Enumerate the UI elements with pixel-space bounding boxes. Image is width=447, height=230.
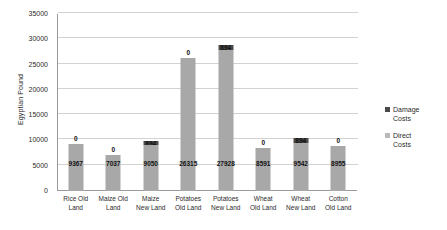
bar-chart: Egyptian Pound 0500010000150002000025000…	[0, 0, 447, 230]
legend-item[interactable]: DirectCosts	[385, 132, 445, 149]
bar-label-direct-costs: 9542	[294, 160, 308, 167]
y-axis-tick-label: 10000	[8, 136, 48, 144]
bar-group[interactable]: 08955	[320, 14, 358, 191]
legend-item[interactable]: DamageCosts	[385, 106, 445, 123]
legend-label-line: Damage	[393, 106, 419, 115]
bar-label-damage-costs: 0	[111, 146, 115, 153]
x-axis-tick-label-line: Old Land	[170, 203, 208, 212]
bar-segment-direct-costs[interactable]: 26315	[181, 58, 196, 191]
x-axis-tick-label-line: Maize Old	[95, 194, 133, 203]
legend-label-line: Direct	[393, 132, 411, 141]
y-axis-tick-label: 25000	[8, 61, 48, 69]
bar-label-direct-costs: 8591	[256, 160, 270, 167]
bar-label-direct-costs: 9367	[69, 160, 83, 167]
y-axis-tick-label: 15000	[8, 111, 48, 119]
bar-label-direct-costs: 26315	[179, 160, 197, 167]
x-axis-tick-label-line: Land	[95, 203, 133, 212]
bar-stack[interactable]: 8949542	[293, 138, 308, 191]
bar-group[interactable]: 8949542	[282, 14, 320, 191]
bar-label-damage-costs: 0	[261, 139, 265, 146]
bars-layer: 0936707037894905002631589427928085918949…	[57, 14, 357, 191]
bar-group[interactable]: 09367	[57, 14, 95, 191]
bar-label-damage-costs: 0	[336, 137, 340, 144]
x-axis-tick-label-line: Potatoes	[207, 194, 245, 203]
bar-group[interactable]: 8949050	[132, 14, 170, 191]
x-axis-tick-labels: Rice OldLandMaize OldLandMaizeNew LandPo…	[57, 194, 357, 224]
x-axis-tick-label: MaizeNew Land	[132, 194, 170, 212]
bar-segment-direct-costs[interactable]: 8955	[331, 146, 346, 191]
x-axis-tick-label: WheatNew Land	[282, 194, 320, 212]
x-axis-tick-label-line: Wheat	[245, 194, 283, 203]
legend-label-line: Costs	[393, 115, 419, 124]
x-axis-tick-label-line: Old Land	[245, 203, 283, 212]
x-axis-tick-label-line: Old Land	[320, 203, 358, 212]
chart-legend: DamageCostsDirectCosts	[385, 106, 445, 158]
legend-item-label: DirectCosts	[393, 132, 411, 149]
bar-segment-direct-costs[interactable]: 9542	[293, 143, 308, 191]
bar-group[interactable]: 89427928	[207, 14, 245, 191]
bar-group[interactable]: 07037	[95, 14, 133, 191]
bar-group[interactable]: 08591	[245, 14, 283, 191]
y-axis-tick-label: 0	[8, 187, 48, 195]
x-axis-tick-label-line: Land	[57, 203, 95, 212]
x-axis-tick-label-line: Cotton	[320, 194, 358, 203]
legend-swatch-icon	[385, 107, 390, 112]
x-axis-tick-label: PotatoesOld Land	[170, 194, 208, 212]
bar-stack[interactable]: 07037	[106, 155, 121, 191]
x-axis-tick-label: CottonOld Land	[320, 194, 358, 212]
bar-stack[interactable]: 89427928	[218, 45, 233, 191]
x-axis-tick-label-line: Potatoes	[170, 194, 208, 203]
gridline	[58, 12, 358, 13]
bar-segment-direct-costs[interactable]: 9367	[68, 144, 83, 191]
bar-label-damage-costs: 0	[186, 49, 190, 56]
bar-label-damage-costs: 0	[74, 135, 78, 142]
x-axis-tick-label-line: Rice Old	[57, 194, 95, 203]
bar-label-direct-costs: 9050	[144, 160, 158, 167]
bar-segment-direct-costs[interactable]: 7037	[106, 155, 121, 191]
bar-stack[interactable]: 08955	[331, 146, 346, 191]
y-axis-tick-label: 20000	[8, 86, 48, 94]
y-axis-tick-label: 30000	[8, 35, 48, 43]
y-axis-tick-label: 35000	[8, 10, 48, 18]
bar-label-direct-costs: 27928	[217, 160, 235, 167]
legend-swatch-icon	[385, 133, 390, 138]
x-axis-tick-label-line: Maize	[132, 194, 170, 203]
bar-segment-direct-costs[interactable]: 8591	[256, 148, 271, 191]
bar-stack[interactable]: 8949050	[143, 141, 158, 191]
bar-group[interactable]: 026315	[170, 14, 208, 191]
bar-segment-direct-costs[interactable]: 9050	[143, 145, 158, 191]
y-axis-tick-label: 5000	[8, 162, 48, 170]
x-axis-tick-label-line: Wheat	[282, 194, 320, 203]
legend-item-label: DamageCosts	[393, 106, 419, 123]
x-axis-tick-label-line: New Land	[132, 203, 170, 212]
bar-stack[interactable]: 08591	[256, 148, 271, 191]
x-axis-tick-label: WheatOld Land	[245, 194, 283, 212]
bar-stack[interactable]: 09367	[68, 144, 83, 191]
x-axis-tick-label-line: New Land	[282, 203, 320, 212]
y-axis-title: Egyptian Pound	[17, 35, 24, 165]
x-axis-tick-label: PotatoesNew Land	[207, 194, 245, 212]
legend-label-line: Costs	[393, 141, 411, 150]
bar-stack[interactable]: 026315	[181, 58, 196, 191]
x-axis-tick-label: Rice OldLand	[57, 194, 95, 212]
bar-segment-direct-costs[interactable]: 27928	[218, 50, 233, 191]
x-axis-tick-label: Maize OldLand	[95, 194, 133, 212]
bar-label-direct-costs: 7037	[106, 160, 120, 167]
x-axis-tick-label-line: New Land	[207, 203, 245, 212]
bar-label-direct-costs: 8955	[331, 160, 345, 167]
